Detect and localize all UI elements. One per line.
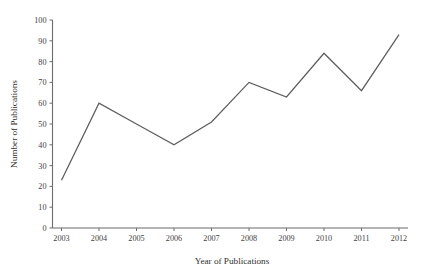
y-axis-tick-label: 90 xyxy=(38,37,46,46)
y-axis-tick-labels: 0102030405060708090100 xyxy=(34,16,46,233)
x-axis-tick-label: 2007 xyxy=(203,234,219,243)
y-axis-tick-label: 40 xyxy=(38,141,46,150)
y-axis-tick-label: 80 xyxy=(38,58,46,67)
y-axis-tick-label: 60 xyxy=(38,99,46,108)
y-axis-tick-label: 0 xyxy=(42,224,46,233)
y-axis-tick-label: 20 xyxy=(38,182,46,191)
y-axis-tick-label: 70 xyxy=(38,78,46,87)
x-axis-tick-label: 2008 xyxy=(241,234,257,243)
y-axis-tick-label: 10 xyxy=(38,203,46,212)
x-axis-tick-label: 2005 xyxy=(128,234,144,243)
y-axis-title: Number of Publications xyxy=(9,80,19,168)
x-axis-tick-label: 2003 xyxy=(53,234,69,243)
x-axis-tick-label: 2009 xyxy=(278,234,294,243)
publications-line-chart: 0102030405060708090100 20032004200520062… xyxy=(0,0,430,273)
x-axis-tick-labels: 2003200420052006200720082009201020112012 xyxy=(53,234,407,243)
y-axis-tick-label: 100 xyxy=(34,16,46,25)
y-axis-tick-label: 30 xyxy=(38,162,46,171)
chart-canvas: 0102030405060708090100 20032004200520062… xyxy=(0,0,430,273)
y-axis-tick-label: 50 xyxy=(38,120,46,129)
publications-series-line xyxy=(62,35,400,181)
x-axis-tick-label: 2004 xyxy=(91,234,107,243)
x-axis-tick-label: 2011 xyxy=(353,234,369,243)
x-axis-tick-label: 2012 xyxy=(391,234,407,243)
x-axis-title: Year of Publications xyxy=(195,256,270,266)
x-axis-tick-label: 2010 xyxy=(316,234,332,243)
x-axis-tick-label: 2006 xyxy=(166,234,182,243)
